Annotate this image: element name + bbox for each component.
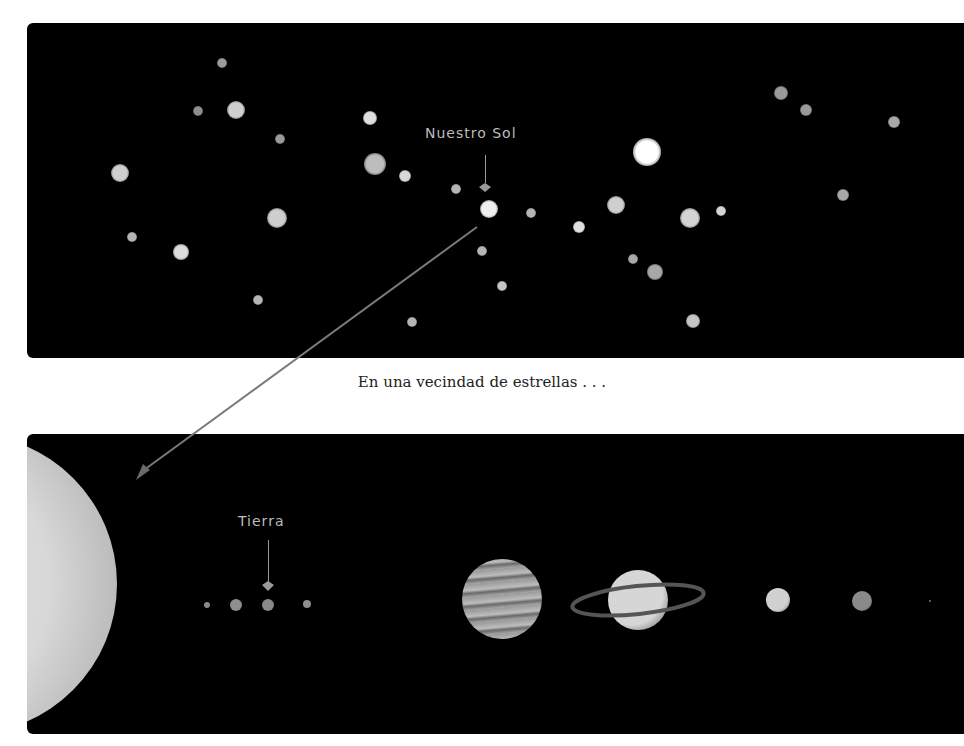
our-sun-label: Nuestro Sol: [425, 125, 517, 141]
star: [680, 208, 700, 228]
star: [573, 221, 585, 233]
star: [275, 134, 285, 144]
star: [837, 189, 849, 201]
sun-surface: [27, 434, 117, 734]
star: [888, 116, 900, 128]
planet-saturn: [608, 570, 668, 630]
planet-mercury: [204, 602, 210, 608]
planet-uranus: [766, 588, 790, 612]
star: [227, 101, 245, 119]
star: [774, 86, 788, 100]
star: [267, 208, 287, 228]
earth-label: Tierra: [238, 513, 284, 529]
star: [399, 170, 411, 182]
star: [253, 295, 263, 305]
star: [633, 138, 661, 166]
planet-earth: [262, 599, 274, 611]
star: [800, 104, 812, 116]
star: [173, 244, 189, 260]
star-neighborhood-panel: [27, 23, 964, 358]
star: [193, 106, 203, 116]
star: [217, 58, 227, 68]
star: [363, 111, 377, 125]
caption: En una vecindad de estrellas . . .: [0, 373, 964, 391]
planet-venus: [230, 599, 242, 611]
star: [628, 254, 638, 264]
star: [407, 317, 417, 327]
star: [686, 314, 700, 328]
star: [497, 281, 507, 291]
our-sun-arrow-icon: [485, 155, 486, 183]
star: [716, 206, 726, 216]
star: [607, 196, 625, 214]
star: [477, 246, 487, 256]
star: [111, 164, 129, 182]
planet-mars: [303, 600, 311, 608]
star: [526, 208, 536, 218]
earth-arrow-icon: [268, 540, 269, 586]
star: [127, 232, 137, 242]
star: [480, 200, 498, 218]
star: [451, 184, 461, 194]
star: [364, 153, 386, 175]
planet-pluto: [929, 600, 931, 602]
planet-jupiter: [462, 559, 542, 639]
planet-neptune: [852, 591, 872, 611]
star: [647, 264, 663, 280]
